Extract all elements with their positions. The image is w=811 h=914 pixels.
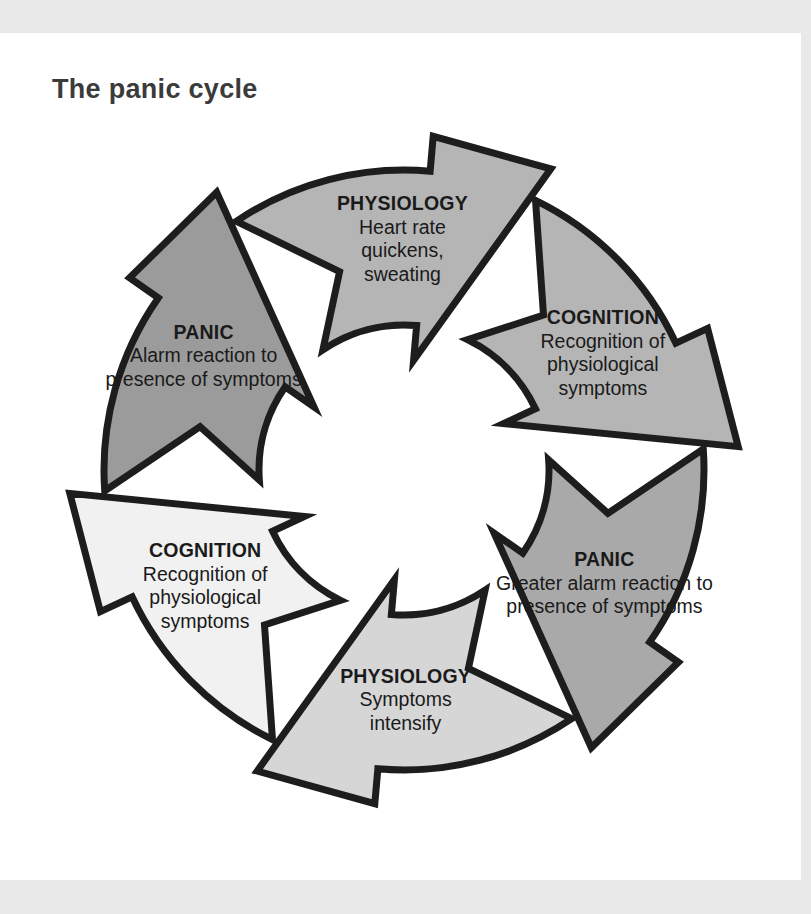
label-line: presence of symptoms bbox=[506, 595, 702, 617]
arrow-label-cognition-2: COGNITIONRecognition ofphysiologicalsymp… bbox=[143, 539, 268, 632]
label-line: Recognition of bbox=[540, 330, 665, 352]
label-line: Recognition of bbox=[143, 563, 268, 585]
arrow-label-cognition-1: COGNITIONRecognition ofphysiologicalsymp… bbox=[540, 306, 665, 399]
label-line: physiological bbox=[547, 353, 659, 375]
label-line: Alarm reaction to bbox=[130, 344, 278, 366]
label-heading: PHYSIOLOGY bbox=[337, 192, 468, 214]
label-line: Symptoms bbox=[360, 688, 452, 710]
label-line: physiological bbox=[149, 586, 261, 608]
label-heading: COGNITION bbox=[149, 539, 261, 561]
label-line: sweating bbox=[364, 263, 441, 285]
label-line: symptoms bbox=[161, 610, 250, 632]
page-title: The panic cycle bbox=[52, 74, 258, 105]
label-line: quickens, bbox=[361, 239, 443, 261]
label-line: Heart rate bbox=[359, 216, 446, 238]
panic-cycle-diagram: PANICAlarm reaction topresence of sympto… bbox=[0, 0, 811, 914]
label-line: symptoms bbox=[558, 377, 647, 399]
figure-page: PANICAlarm reaction topresence of sympto… bbox=[0, 0, 811, 914]
label-line: presence of symptoms bbox=[105, 368, 301, 390]
label-heading: PANIC bbox=[574, 548, 634, 570]
label-heading: COGNITION bbox=[547, 306, 659, 328]
label-line: Greater alarm reaction to bbox=[496, 572, 713, 594]
label-heading: PANIC bbox=[173, 321, 233, 343]
label-heading: PHYSIOLOGY bbox=[340, 665, 471, 687]
label-line: intensify bbox=[370, 712, 442, 734]
